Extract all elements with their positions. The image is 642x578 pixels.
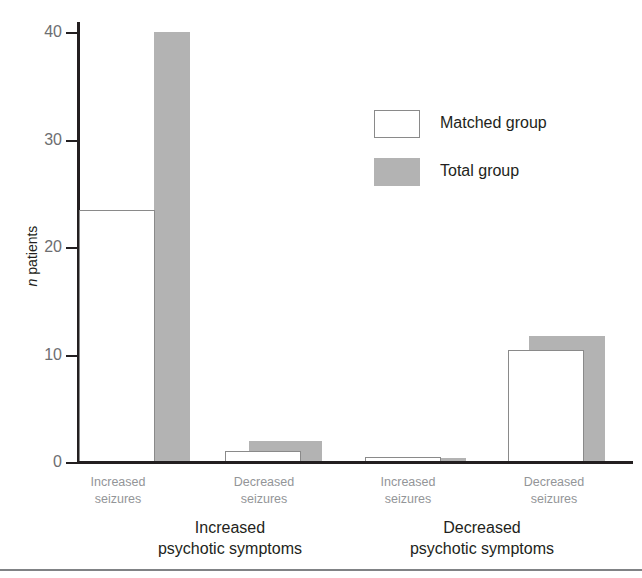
y-tick-40 bbox=[66, 32, 78, 34]
category-label-g1-increased: Increased seizures bbox=[58, 474, 178, 508]
y-tick-10 bbox=[66, 355, 78, 357]
category-label-g2-increased: Increased seizures bbox=[348, 474, 468, 508]
y-axis-title: n patients bbox=[24, 206, 40, 306]
group-label-decreased-line2: psychotic symptoms bbox=[367, 539, 597, 560]
legend-swatch-matched-group bbox=[374, 110, 420, 138]
bar-matched-g1-increased bbox=[79, 210, 155, 462]
bar-chart-figure: 40 30 20 10 0 n patients Matched group T… bbox=[0, 0, 642, 578]
y-tick-20 bbox=[66, 247, 78, 249]
y-tick-label-10: 10 bbox=[28, 347, 62, 363]
y-axis-title-italic: n bbox=[24, 279, 40, 287]
bottom-divider bbox=[0, 569, 642, 571]
bar-total-g1-increased bbox=[154, 32, 190, 462]
category-label-g1-increased-line2: seizures bbox=[58, 491, 178, 508]
y-axis-title-rest: patients bbox=[24, 226, 40, 279]
category-label-g2-increased-line1: Increased bbox=[348, 474, 468, 491]
group-label-increased-line1: Increased bbox=[115, 518, 345, 539]
y-tick-label-30: 30 bbox=[28, 132, 62, 148]
y-tick-label-0: 0 bbox=[28, 454, 62, 470]
legend-label-total-group: Total group bbox=[440, 162, 519, 180]
bar-matched-g2-decreased bbox=[508, 350, 584, 462]
group-label-increased-psychotic-symptoms: Increased psychotic symptoms bbox=[115, 518, 345, 560]
category-label-g2-increased-line2: seizures bbox=[348, 491, 468, 508]
legend-label-matched-group: Matched group bbox=[440, 114, 547, 132]
group-label-decreased-psychotic-symptoms: Decreased psychotic symptoms bbox=[367, 518, 597, 560]
category-label-g2-decreased-line2: seizures bbox=[494, 491, 614, 508]
category-label-g1-decreased-line2: seizures bbox=[204, 491, 324, 508]
category-label-g1-decreased: Decreased seizures bbox=[204, 474, 324, 508]
category-label-g2-decreased-line1: Decreased bbox=[494, 474, 614, 491]
y-tick-label-40: 40 bbox=[28, 24, 62, 40]
group-label-increased-line2: psychotic symptoms bbox=[115, 539, 345, 560]
category-label-g1-increased-line1: Increased bbox=[58, 474, 178, 491]
y-tick-30 bbox=[66, 140, 78, 142]
legend-swatch-total-group bbox=[374, 158, 420, 186]
category-label-g2-decreased: Decreased seizures bbox=[494, 474, 614, 508]
category-label-g1-decreased-line1: Decreased bbox=[204, 474, 324, 491]
x-axis-line bbox=[77, 461, 633, 464]
group-label-decreased-line1: Decreased bbox=[367, 518, 597, 539]
